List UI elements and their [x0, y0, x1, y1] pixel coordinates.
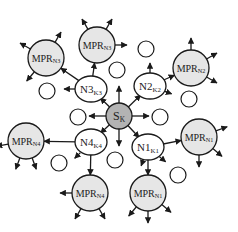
nodes-layer: MPRN3MPRN3MPRN2MPRN4MPRN1MPRN4MPRN1N3K3N… — [8, 27, 217, 211]
neighbor-to-mpr-arrow — [44, 141, 78, 142]
outgoing-arrow — [216, 127, 227, 131]
mpr-flooding-diagram: MPRN3MPRN3MPRN2MPRN4MPRN1MPRN4MPRN1N3K3N… — [0, 0, 238, 232]
plain-node — [107, 152, 123, 168]
outgoing-arrow — [207, 53, 217, 59]
outgoing-arrow — [16, 158, 20, 169]
outgoing-arrow — [55, 32, 61, 42]
outgoing-arrow — [82, 19, 88, 29]
neighbor-to-mpr-arrow — [61, 68, 80, 81]
plain-node — [152, 109, 168, 125]
outgoing-arrow — [106, 19, 112, 29]
outgoing-arrow — [0, 144, 8, 146]
outgoing-arrow — [99, 209, 105, 219]
plain-node — [70, 109, 86, 125]
outgoing-arrow — [75, 209, 81, 219]
outgoing-arrow — [27, 72, 35, 81]
outgoing-arrow — [141, 160, 143, 166]
outgoing-arrow — [213, 149, 222, 157]
outgoing-arrow — [20, 43, 30, 49]
outgoing-arrow — [75, 153, 81, 159]
outgoing-arrow — [162, 205, 171, 213]
plain-node — [51, 155, 67, 171]
outgoing-arrow — [207, 77, 217, 83]
outgoing-arrow — [129, 207, 137, 216]
plain-node — [138, 41, 154, 57]
outgoing-arrow — [159, 157, 165, 162]
diagram-canvas: MPRN3MPRN3MPRN2MPRN4MPRN1MPRN4MPRN1N3K3N… — [0, 0, 238, 232]
source-to-neighbor-arrow — [128, 95, 140, 107]
plain-node — [109, 62, 125, 78]
plain-node — [181, 91, 197, 107]
neighbor-to-mpr-arrow — [93, 63, 95, 76]
source-to-neighbor-arrow — [128, 125, 139, 137]
plain-node — [39, 83, 55, 99]
plain-node — [170, 167, 186, 183]
outgoing-arrow — [32, 158, 36, 169]
